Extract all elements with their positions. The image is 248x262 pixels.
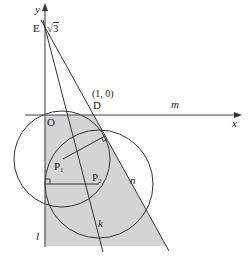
y-axis-label: y bbox=[34, 3, 40, 15]
point-e-value-label: √3 bbox=[47, 22, 59, 34]
line-m-label: m bbox=[171, 98, 179, 110]
circle-n-label: n bbox=[130, 174, 136, 186]
point-d-label: D bbox=[93, 99, 101, 111]
shaded-region bbox=[45, 115, 166, 246]
line-l-label: l bbox=[36, 230, 39, 242]
point-p1-label: P₁ bbox=[54, 160, 64, 172]
point-p2-label: P₂ bbox=[92, 171, 102, 183]
diagram-canvas: y E √3 (1, 0) D O m x P₁ P₂ n k l bbox=[0, 0, 248, 262]
x-axis-label: x bbox=[231, 117, 237, 129]
origin-label: O bbox=[47, 116, 55, 128]
geometry-figure: y E √3 (1, 0) D O m x P₁ P₂ n k l bbox=[0, 0, 248, 262]
y-axis-arrow-icon bbox=[42, 3, 48, 11]
point-e-label: E bbox=[33, 22, 40, 34]
